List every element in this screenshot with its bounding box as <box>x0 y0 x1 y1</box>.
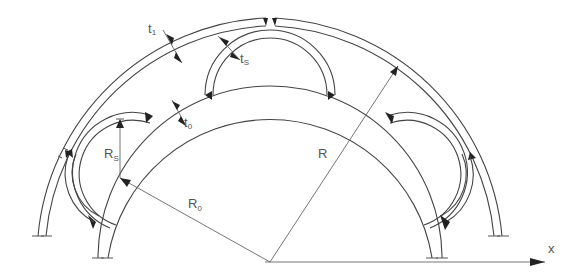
x-axis: x <box>265 241 555 266</box>
weld-top-left-icon <box>263 18 268 26</box>
x-axis-label: x <box>548 241 555 256</box>
arrowhead-icon <box>116 119 124 128</box>
label-ts-sub: S <box>244 58 249 67</box>
svg-text:tS: tS <box>240 51 249 67</box>
outer-shell <box>32 18 509 236</box>
svg-text:R0: R0 <box>188 196 202 213</box>
arrowhead-icon <box>174 52 182 63</box>
arrowhead-icon <box>172 101 180 110</box>
svg-text:t0: t0 <box>184 115 193 131</box>
thickness-t1: t1 <box>148 21 182 63</box>
right-stiffener <box>385 112 473 230</box>
inner-shell <box>92 86 448 258</box>
weld-icon <box>145 112 153 123</box>
label-t1-sub: 1 <box>152 28 157 37</box>
label-R: R <box>318 146 327 161</box>
label-Rs-sub: S <box>113 154 118 163</box>
label-t0-sub: 0 <box>188 122 193 131</box>
weld-top-right-icon <box>272 18 277 26</box>
arrowhead-icon <box>219 37 229 46</box>
cylindrical-shell-cross-section-diagram: x <box>0 0 578 279</box>
radius-Rs: RS <box>104 119 124 178</box>
left-stiffener <box>66 112 153 229</box>
label-R0: R <box>188 196 197 211</box>
svg-text:RS: RS <box>104 146 119 163</box>
label-R0-sub: 0 <box>197 204 202 213</box>
thickness-t0: t0 <box>172 100 193 131</box>
weld-right-icon <box>468 152 476 160</box>
label-Rs: R <box>104 146 113 161</box>
arrowhead-icon <box>120 178 131 187</box>
radius-R0: R0 <box>120 178 270 262</box>
x-axis-arrowhead-icon <box>530 258 545 266</box>
arrowhead-icon <box>390 66 398 76</box>
svg-text:t1: t1 <box>148 21 157 37</box>
